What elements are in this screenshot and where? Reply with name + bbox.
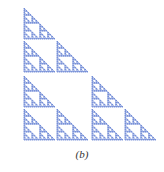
- figure-caption: (b): [0, 148, 164, 160]
- sierpinski-triangle-figure: [0, 0, 164, 172]
